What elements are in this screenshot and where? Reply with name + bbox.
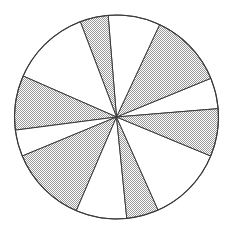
pie-sector-figure bbox=[0, 0, 233, 232]
pie-chart-svg bbox=[0, 0, 233, 232]
sector-layer bbox=[14, 15, 218, 219]
